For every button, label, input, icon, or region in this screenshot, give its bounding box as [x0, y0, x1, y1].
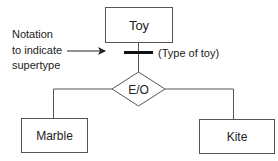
subtype-connector-marble — [54, 89, 113, 118]
supertype-subtype-diagram: Toy (Type of toy) Notation to indicate s… — [0, 0, 278, 161]
entity-marble-label: Marble — [36, 129, 73, 143]
subtype-connector-kite — [165, 89, 234, 119]
constraint-label: E/O — [128, 83, 149, 97]
annotation-line-3: supertype — [12, 59, 60, 71]
subtype-discriminator-label: (Type of toy) — [158, 47, 219, 59]
constraint-diamond: E/O — [112, 72, 165, 106]
entity-toy: Toy — [106, 8, 173, 43]
annotation-line-2: to indicate — [12, 44, 62, 56]
annotation-line-1: Notation — [12, 28, 53, 40]
entity-toy-label: Toy — [129, 18, 150, 33]
entity-kite-label: Kite — [227, 130, 248, 144]
entity-kite: Kite — [200, 120, 275, 154]
entity-marble: Marble — [22, 119, 88, 153]
notation-annotation: Notation to indicate supertype — [12, 28, 105, 71]
